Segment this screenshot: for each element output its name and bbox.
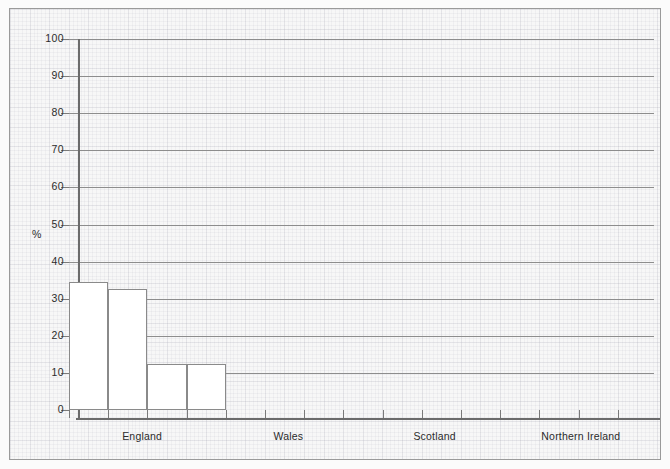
x-category-label: Northern Ireland: [541, 430, 620, 442]
bar: [108, 289, 147, 410]
x-axis-tick: [618, 410, 619, 418]
x-axis-tick: [539, 410, 540, 418]
plot-area: [69, 39, 654, 410]
y-axis-tick-label: 60: [18, 180, 64, 192]
figure: % 0102030405060708090100 EnglandWalesSco…: [0, 0, 670, 469]
x-axis-tick: [500, 410, 501, 418]
bar: [187, 364, 226, 410]
y-axis-tick-label: 40: [18, 255, 64, 267]
x-axis-tick: [461, 410, 462, 418]
bar: [147, 364, 186, 410]
x-axis-tick: [69, 410, 70, 418]
x-axis-tick: [579, 410, 580, 418]
y-axis-tick-label: 10: [18, 366, 64, 378]
x-axis-tick: [422, 410, 423, 418]
y-axis-tick-label: 20: [18, 329, 64, 341]
x-axis-tick: [147, 410, 148, 418]
x-axis-tick: [108, 410, 109, 418]
y-axis-tick-label: 30: [18, 292, 64, 304]
x-axis-tick: [343, 410, 344, 418]
x-category-label: Wales: [273, 430, 303, 442]
x-axis-tick: [383, 410, 384, 418]
graph-paper-background: % 0102030405060708090100 EnglandWalesSco…: [9, 8, 661, 460]
x-category-label: England: [122, 430, 162, 442]
x-axis-tick: [304, 410, 305, 418]
y-axis-tick-label: 80: [18, 106, 64, 118]
y-axis-tick-label: 50: [18, 218, 64, 230]
y-axis-tick-label: 100: [18, 32, 64, 44]
y-axis-tick-label: 70: [18, 143, 64, 155]
y-axis-label: %: [32, 228, 41, 240]
y-axis-tick-label: 90: [18, 69, 64, 81]
x-axis-tick: [187, 410, 188, 418]
y-axis-tick-label: 0: [18, 403, 64, 415]
x-axis-tick: [265, 410, 266, 418]
x-axis-line: [76, 418, 661, 420]
bar: [69, 282, 108, 410]
x-axis-tick: [226, 410, 227, 418]
x-category-label: Scotland: [413, 430, 455, 442]
